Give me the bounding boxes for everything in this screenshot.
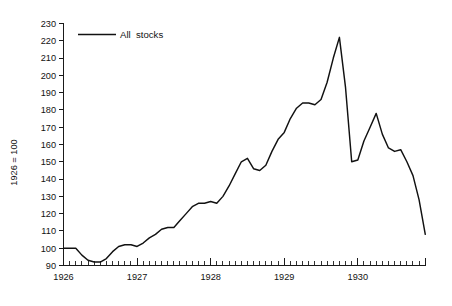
y-tick-label-210: 210: [41, 53, 56, 63]
y-tick-label-110: 110: [41, 226, 56, 236]
y-axis-title: 1926 = 100: [9, 139, 19, 185]
line-chart: 9010011012013014015016017018019020021022…: [0, 0, 452, 306]
y-tick-label-190: 190: [41, 88, 56, 98]
x-tick-label-1928: 1928: [200, 272, 220, 282]
y-tick-label-170: 170: [41, 123, 56, 133]
chart-container: 9010011012013014015016017018019020021022…: [0, 0, 452, 306]
y-tick-label-90: 90: [46, 261, 56, 271]
y-tick-label-150: 150: [41, 157, 56, 167]
y-tick-label-140: 140: [41, 174, 56, 184]
y-tick-label-130: 130: [41, 192, 56, 202]
series-line-all-stocks: [64, 37, 426, 262]
y-tick-label-200: 200: [41, 71, 56, 81]
x-tick-label-1930: 1930: [348, 272, 368, 282]
x-tick-label-1926: 1926: [53, 272, 73, 282]
y-tick-label-160: 160: [41, 140, 56, 150]
y-tick-label-220: 220: [41, 36, 56, 46]
x-tick-label-1927: 1927: [127, 272, 147, 282]
x-tick-label-1929: 1929: [274, 272, 294, 282]
y-tick-label-180: 180: [41, 105, 56, 115]
legend-label-all-stocks: All stocks: [120, 29, 163, 40]
y-tick-label-120: 120: [41, 209, 56, 219]
y-tick-label-230: 230: [41, 19, 56, 29]
y-tick-label-100: 100: [41, 244, 56, 254]
